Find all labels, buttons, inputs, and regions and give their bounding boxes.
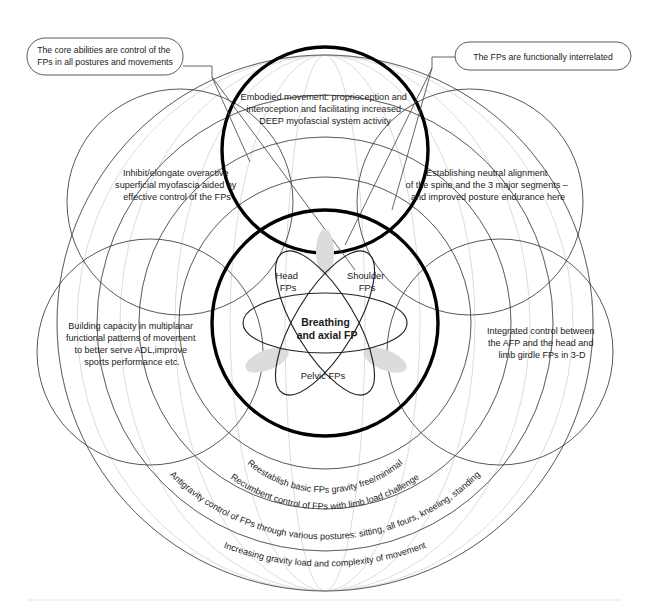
callout-interrelated[interactable]: The FPs are functionally interrelated	[455, 42, 631, 70]
petal-label-head: Head FPs	[275, 270, 300, 293]
figure-canvas: Embodied movement: proprioception and in…	[0, 0, 649, 607]
arc-captions: Reestablish basic FPs gravity free/minim…	[168, 458, 482, 569]
leader-core-abilities	[183, 66, 250, 162]
lobe-building-capacity: Building capacity in multiplanar functio…	[66, 321, 198, 367]
callout-interrelated-text: The FPs are functionally interrelated	[473, 52, 613, 62]
arc-caption-reestablish: Reestablish basic FPs gravity free/minim…	[246, 458, 405, 495]
petal-label-shoulder: Shoulder FPs	[347, 270, 387, 293]
lens-shading	[242, 229, 410, 378]
petal-label-pelvic: Pelvic FPs	[301, 370, 346, 381]
callout-core-abilities[interactable]: The core abilities are control of the FP…	[27, 38, 183, 75]
lobe-integrated-control: Integrated control between the AFP and t…	[487, 326, 597, 360]
core-center-label: Breathing and axial FP	[297, 317, 358, 341]
lobe-embodied-movement: Embodied movement: proprioception and in…	[241, 92, 410, 126]
lobe-neutral-alignment: Establishing neutral alignment of the sp…	[406, 168, 571, 202]
arc-caption-increasing-gravity: Increasing gravity load and complexity o…	[223, 540, 428, 569]
lobe-circle-top	[222, 47, 428, 253]
concentric-fp-diagram: Embodied movement: proprioception and in…	[0, 0, 649, 607]
lobe-inhibit-elongate: Inhibit/elongate overactive superficial …	[115, 168, 239, 202]
